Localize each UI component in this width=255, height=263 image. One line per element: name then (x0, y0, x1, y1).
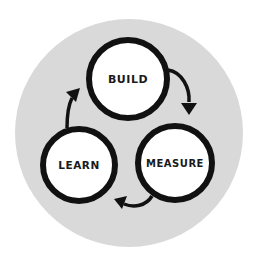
diagram-canvas: BUILD LEARN MEASURE (0, 0, 255, 263)
node-label-build: BUILD (108, 73, 148, 86)
node-label-learn: LEARN (58, 159, 99, 171)
node-build: BUILD (89, 40, 167, 118)
build-measure-learn-diagram: BUILD LEARN MEASURE (0, 0, 255, 263)
node-learn: LEARN (43, 129, 115, 201)
node-measure: MEASURE (138, 126, 212, 200)
node-label-measure: MEASURE (146, 158, 204, 169)
